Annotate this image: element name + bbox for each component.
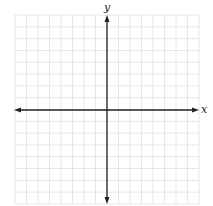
- coordinate-plane: x y: [0, 0, 213, 206]
- x-axis-right-arrow-icon: [192, 108, 199, 113]
- y-axis-bottom-arrow-icon: [105, 197, 110, 204]
- y-axis-top-arrow-icon: [105, 15, 110, 22]
- y-axis-label: y: [103, 1, 111, 14]
- x-axis-label: x: [201, 103, 208, 116]
